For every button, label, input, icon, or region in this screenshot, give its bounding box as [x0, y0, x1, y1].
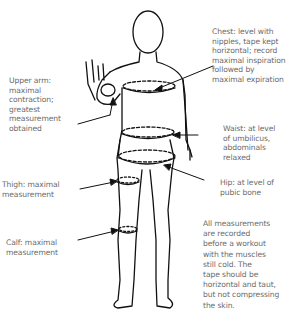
waist-tape — [122, 127, 174, 137]
torso-outline — [110, 52, 190, 160]
note-text: All measurements are recorded before a w… — [203, 219, 279, 311]
chest-tape — [123, 81, 175, 91]
head — [133, 11, 163, 53]
right-arm — [183, 80, 192, 157]
hip-label: Hip: at level of pubic bone — [220, 178, 274, 197]
calf-tape — [119, 227, 137, 232]
raised-arm — [86, 60, 120, 104]
chest-label: Chest: level with nipples, tape kept hor… — [212, 27, 285, 85]
biceps — [101, 84, 115, 96]
calf-label: Calf: maximal measurement — [6, 238, 58, 257]
upper-arm-label: Upper arm: maximal contraction; greatest… — [9, 76, 61, 134]
thigh-label: Thigh: maximal measurement — [2, 180, 60, 199]
waist-label: Waist: at level of umbilicus, abdominals… — [223, 124, 275, 162]
hip-tape — [119, 150, 175, 162]
thigh-tape — [117, 177, 139, 183]
